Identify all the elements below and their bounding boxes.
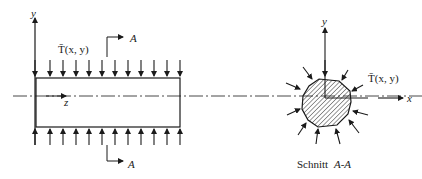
load-arrow-icon — [286, 83, 300, 89]
load-arrow-icon — [353, 111, 368, 115]
cross-section-shape — [302, 79, 351, 127]
section-marker-bottom: A — [107, 145, 135, 170]
section-x-axis-label: x — [406, 92, 412, 104]
load-label-left: T̄(x, y) — [58, 43, 89, 56]
z-axis-label: z — [63, 96, 69, 108]
bottom-load-arrows — [35, 129, 180, 145]
load-arrow-icon — [352, 85, 363, 91]
load-arrow-icon — [336, 129, 340, 144]
diagram-canvas: y z T̄(x, y) — [0, 0, 422, 179]
load-arrow-icon — [303, 67, 312, 79]
section-y-axis-label: y — [321, 15, 327, 27]
load-label-right: T̄(x, y) — [368, 72, 399, 85]
beam — [36, 78, 180, 127]
load-arrow-icon — [287, 109, 300, 115]
load-arrow-icon — [298, 123, 306, 135]
section-caption-word: Schnitt — [297, 158, 328, 170]
section-caption: Schnitt A-A — [297, 158, 351, 170]
section-marker-top: A — [107, 32, 137, 57]
y-axis-label: y — [30, 7, 36, 19]
load-arrow-icon — [316, 129, 318, 144]
section-marker-bottom-label: A — [127, 158, 135, 170]
cross-section-view: y x T̄(x, y) Schnitt A-A — [286, 15, 412, 170]
top-load-arrows — [35, 60, 180, 76]
section-caption-id: A-A — [333, 158, 351, 170]
load-arrow-icon — [349, 120, 359, 133]
longitudinal-view: y z T̄(x, y) — [13, 7, 422, 170]
section-marker-top-label: A — [129, 32, 137, 44]
load-arrow-icon — [342, 70, 348, 80]
